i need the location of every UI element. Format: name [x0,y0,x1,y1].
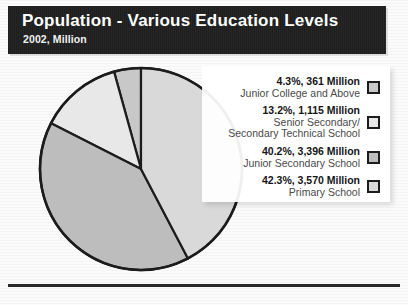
legend-item-junior-secondary[interactable]: 40.2%, 3,396 Million Junior Secondary Sc… [243,146,380,169]
legend-item-junior-college[interactable]: 4.3%, 361 Million Junior College and Abo… [240,76,380,99]
legend-item-label: Junior Secondary School [243,158,360,170]
legend-item-senior-secondary[interactable]: 13.2%, 1,115 Million Senior Secondary/ S… [228,105,380,140]
legend-item-value: 40.2%, 3,396 Million [243,146,360,158]
legend: 4.3%, 361 Million Junior College and Abo… [202,66,390,202]
legend-item-text: 4.3%, 361 Million Junior College and Abo… [240,76,360,99]
legend-item-primary-school[interactable]: 42.3%, 3,570 Million Primary School [262,175,380,198]
legend-item-text: 13.2%, 1,115 Million Senior Secondary/ S… [228,105,360,140]
legend-item-text: 40.2%, 3,396 Million Junior Secondary Sc… [243,146,360,169]
legend-item-label-2: Secondary Technical School [228,128,360,140]
page-subtitle: 2002, Million [23,33,87,45]
bottom-divider [8,284,400,287]
chart-page: Population - Various Education Levels 20… [0,0,408,305]
legend-item-value: 4.3%, 361 Million [240,76,360,88]
page-title: Population - Various Education Levels [22,11,338,31]
legend-swatch-icon [367,180,380,193]
legend-item-value: 42.3%, 3,570 Million [262,175,360,187]
legend-item-text: 42.3%, 3,570 Million Primary School [262,175,360,198]
legend-item-label: Junior College and Above [240,88,360,100]
legend-swatch-icon [367,116,380,129]
legend-item-label: Primary School [262,187,360,199]
legend-swatch-icon [367,81,380,94]
legend-item-value: 13.2%, 1,115 Million [228,105,360,117]
legend-swatch-icon [367,151,380,164]
header-bar: Population - Various Education Levels 20… [8,6,386,54]
